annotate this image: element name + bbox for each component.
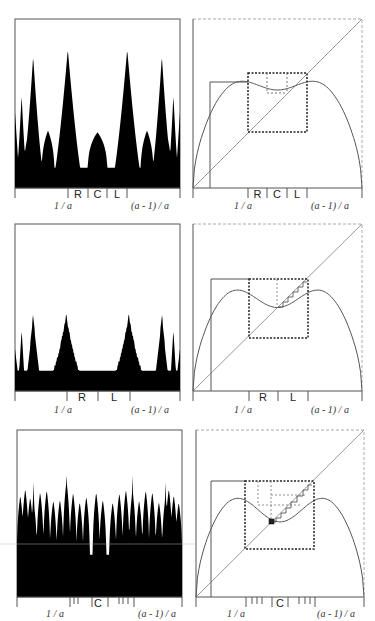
row1-left-label-r: R [74, 188, 82, 200]
row2-left-axis-label-1a: 1 / a [54, 404, 72, 415]
row2-map-curve [193, 290, 362, 391]
row1-left-axis-label-a1a: (a - 1) / a [131, 200, 169, 212]
row1-left-label-c: C [94, 188, 102, 200]
row1-diagonal [193, 19, 362, 188]
row3-cobweb-plot: C 1 / a (a - 1) / a [196, 430, 364, 620]
row2-left-label-l: L [111, 391, 117, 403]
row2-right-axis-label-1a: 1 / a [234, 404, 252, 415]
row2-right-label-l: L [290, 391, 296, 403]
row1-right-label-l: L [294, 188, 300, 200]
row2-zoom-box [249, 279, 308, 338]
row1-density-plot: R C L 1 / a (a - 1) / a [15, 19, 180, 212]
row3-left-axis-label-1a: 1 / a [46, 608, 64, 619]
row1-right-label-c: C [273, 188, 281, 200]
row2-left-frame [15, 224, 180, 391]
row3-right-axis-label-a1a: (a - 1) / a [317, 608, 355, 620]
row1-map-curve [193, 81, 362, 188]
row2-right-label-r: R [259, 391, 267, 403]
row3-density-fill [17, 475, 182, 597]
row2-density-plot: R L 1 / a (a - 1) / a [15, 224, 180, 416]
row2-left-ticks [15, 391, 180, 401]
row1-density-fill [15, 52, 180, 188]
row2-density-fill [15, 315, 180, 391]
row3-diagonal [196, 430, 364, 597]
row2-left-label-r: R [78, 391, 86, 403]
row3-density-plot: C 1 / a (a - 1) / a [0, 430, 195, 620]
row1-cobweb-plot: R C L 1 / a (a - 1) / a [193, 19, 362, 212]
row3-cobweb-staircase [272, 485, 312, 522]
row2-cobweb-plot: R L 1 / a (a - 1) / a [193, 224, 362, 416]
row1-cobweb-entry [210, 82, 248, 188]
row1-right-label-r: R [254, 188, 262, 200]
row3-left-axis-label-a1a: (a - 1) / a [138, 608, 176, 620]
row1-left-label-l: L [114, 188, 120, 200]
row2-left-axis-label-a1a: (a - 1) / a [131, 404, 169, 416]
row3-right-axis-label-1a: 1 / a [227, 608, 245, 619]
row2-cobweb-entry [211, 279, 249, 391]
row3-left-label-c: C [94, 597, 102, 609]
row3-zoom-box [245, 481, 314, 549]
row2-right-ticks [193, 391, 362, 401]
row3-fixed-point-marker [269, 519, 274, 524]
row1-right-axis-label-a1a: (a - 1) / a [311, 200, 349, 212]
row2-right-axis-label-a1a: (a - 1) / a [311, 404, 349, 416]
row3-right-label-c: C [276, 597, 284, 609]
figure-canvas: R C L 1 / a (a - 1) / a R C L 1 / a (a -… [0, 0, 375, 621]
row1-zoom-box [248, 73, 307, 132]
row1-right-axis-label-1a: 1 / a [234, 200, 252, 211]
row1-left-axis-label-1a: 1 / a [54, 200, 72, 211]
